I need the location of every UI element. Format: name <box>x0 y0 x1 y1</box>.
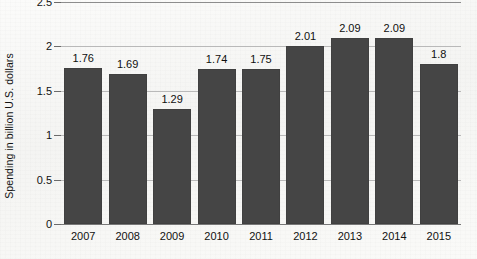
bar-2014 <box>375 38 413 224</box>
bar-2007 <box>64 68 102 224</box>
x-tick-label-2007: 2007 <box>71 230 95 242</box>
bar-2013 <box>331 38 369 224</box>
bar-2009 <box>153 109 191 224</box>
y-tick-label-0.5: 0.5 <box>18 174 52 186</box>
bar-value-label-2007: 1.76 <box>73 52 94 64</box>
x-tick-label-2015: 2015 <box>427 230 451 242</box>
y-axis-title: Spending in billion U.S. dollars <box>3 31 15 221</box>
x-tick-label-2011: 2011 <box>249 230 273 242</box>
bar-value-label-2015: 1.8 <box>431 48 446 60</box>
bar-value-label-2008: 1.69 <box>117 58 138 70</box>
bar-value-label-2012: 2.01 <box>295 30 316 42</box>
x-tick-label-2010: 2010 <box>204 230 228 242</box>
bar-value-label-2011: 1.75 <box>250 53 271 65</box>
y-tick-label-0: 0 <box>18 218 52 230</box>
bar-2011 <box>242 69 280 224</box>
y-tick-mark-1.5 <box>54 91 61 92</box>
bar-2008 <box>109 74 147 224</box>
bar-2012 <box>286 46 324 224</box>
y-tick-mark-2 <box>54 46 61 47</box>
x-tick-label-2008: 2008 <box>115 230 139 242</box>
x-axis-baseline <box>61 224 461 225</box>
bar-value-label-2009: 1.29 <box>161 93 182 105</box>
bar-value-label-2013: 2.09 <box>339 22 360 34</box>
x-tick-label-2013: 2013 <box>338 230 362 242</box>
gridline-2.5 <box>61 2 461 3</box>
y-tick-label-2: 2 <box>18 40 52 52</box>
y-tick-label-1: 1 <box>18 129 52 141</box>
bar-value-label-2014: 2.09 <box>384 22 405 34</box>
x-tick-label-2012: 2012 <box>293 230 317 242</box>
x-tick-label-2014: 2014 <box>382 230 406 242</box>
x-tick-label-2009: 2009 <box>160 230 184 242</box>
bar-chart: Spending in billion U.S. dollars 00.511.… <box>0 0 477 259</box>
y-tick-mark-1 <box>54 135 61 136</box>
bar-2010 <box>198 69 236 224</box>
bar-2015 <box>420 64 458 224</box>
y-tick-mark-0 <box>54 224 61 225</box>
y-tick-mark-2.5 <box>54 2 61 3</box>
y-tick-label-2.5: 2.5 <box>18 0 52 8</box>
bar-value-label-2010: 1.74 <box>206 53 227 65</box>
y-tick-label-1.5: 1.5 <box>18 85 52 97</box>
y-tick-mark-0.5 <box>54 180 61 181</box>
